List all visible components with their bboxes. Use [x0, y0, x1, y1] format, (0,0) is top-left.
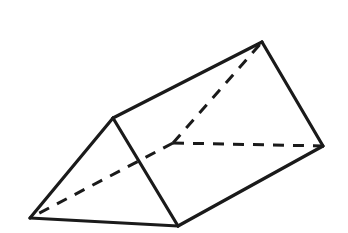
figure-canvas — [0, 0, 348, 233]
triangular-prism-figure — [0, 0, 348, 233]
